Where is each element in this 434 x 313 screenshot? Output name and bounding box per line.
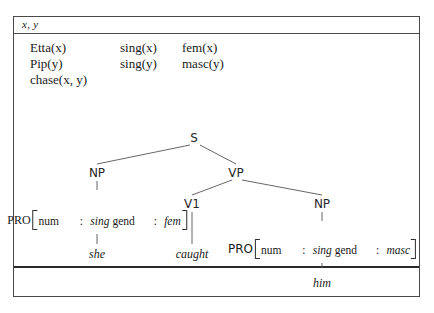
tree-leaf-she: she xyxy=(89,247,105,262)
avm-matrix: num : sing gend : masc xyxy=(255,239,416,259)
avm-object-pronoun: PRO num : sing gend : masc xyxy=(228,239,416,259)
avm-value: sing xyxy=(313,244,332,256)
avm-attribute: num xyxy=(261,243,295,257)
edge-s-vp xyxy=(200,145,236,164)
tree-edges xyxy=(14,34,421,268)
avm-attribute: gend xyxy=(335,243,369,257)
avm-matrix: num : sing gend : fem xyxy=(33,210,187,230)
drs-empty-compartment xyxy=(14,268,419,298)
syntax-tree: S NP VP V1 NP PRO num : sing gend : xyxy=(14,34,419,266)
tree-leaf-caught: caught xyxy=(176,247,209,262)
avm-separator: : xyxy=(149,214,161,228)
avm-value: masc xyxy=(386,244,410,256)
edge-vp-np2 xyxy=(242,180,322,195)
drs-universe-row: x, y xyxy=(14,17,419,34)
drs-box: x, y Etta(x) sing(x) fem(x) Pip(y) sing(… xyxy=(13,16,420,297)
tree-node-v1: V1 xyxy=(184,197,200,211)
avm-head-label: PRO xyxy=(228,242,255,256)
tree-node-np-object: NP xyxy=(314,197,330,211)
avm-head-label: PRO xyxy=(7,213,32,228)
avm-feature-row: gend : fem xyxy=(112,215,180,227)
avm-attribute: num xyxy=(39,214,73,228)
edge-vp-v1 xyxy=(192,180,232,195)
edge-s-np1 xyxy=(97,145,190,164)
tree-node-np-subject: NP xyxy=(89,166,105,180)
tree-node-s: S xyxy=(190,131,198,145)
avm-attribute: gend xyxy=(112,214,146,228)
drs-conditions-compartment: Etta(x) sing(x) fem(x) Pip(y) sing(y) ma… xyxy=(14,34,419,268)
discourse-referents: x, y xyxy=(22,18,38,30)
avm-separator: : xyxy=(298,243,310,257)
avm-value: sing xyxy=(90,215,109,227)
avm-feature-row: num : sing xyxy=(261,244,335,256)
avm-subject-pronoun: PRO num : sing gend : fem xyxy=(7,210,187,230)
avm-value: fem xyxy=(164,215,181,227)
avm-feature-row: num : sing xyxy=(39,215,113,227)
avm-separator: : xyxy=(372,243,384,257)
avm-separator: : xyxy=(75,214,87,228)
tree-node-vp: VP xyxy=(228,166,243,180)
avm-feature-row: gend : masc xyxy=(335,244,410,256)
